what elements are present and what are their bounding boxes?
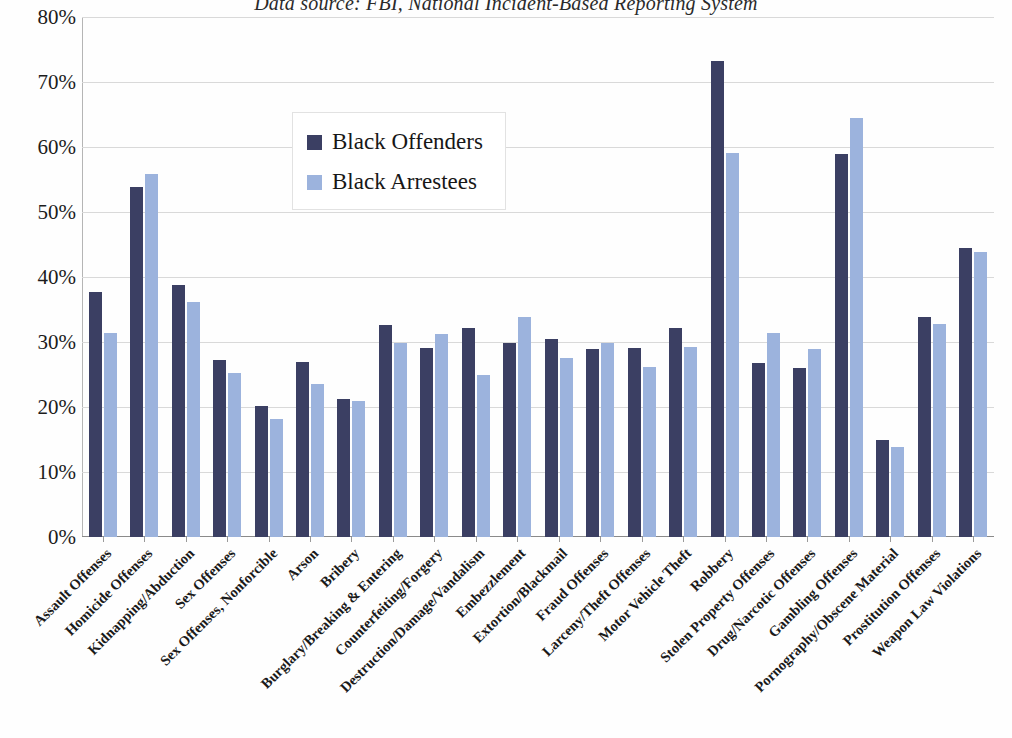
x-label-slot: Larceny/Theft Offenses (621, 537, 662, 737)
legend: Black Offenders Black Arrestees (292, 112, 506, 210)
y-tick-label: 0% (4, 525, 76, 550)
bar-arrestees[interactable] (684, 347, 697, 537)
bar-arrestees[interactable] (394, 343, 407, 537)
bar-arrestees[interactable] (560, 358, 573, 537)
plot-area (82, 17, 994, 537)
x-label-slot: Homicide Offenses (123, 537, 164, 737)
bar-arrestees[interactable] (104, 333, 117, 537)
x-label-slot: Sex Offenses (206, 537, 247, 737)
bar-offenders[interactable] (130, 187, 143, 537)
bar-chart: Data source: FBI, National Incident-Base… (0, 0, 1012, 738)
bar-arrestees[interactable] (726, 153, 739, 537)
bar-arrestees[interactable] (643, 367, 656, 537)
bar-offenders[interactable] (255, 406, 268, 537)
bar-arrestees[interactable] (187, 302, 200, 537)
bar-group (745, 17, 786, 537)
bar-offenders[interactable] (337, 399, 350, 537)
bar-group (165, 17, 206, 537)
bar-offenders[interactable] (296, 362, 309, 538)
bar-arrestees[interactable] (145, 174, 158, 537)
legend-label-arrestees: Black Arrestees (332, 169, 477, 195)
y-tick-label: 20% (4, 395, 76, 420)
y-tick-label: 70% (4, 70, 76, 95)
bar-offenders[interactable] (628, 348, 641, 537)
y-tick-label: 50% (4, 200, 76, 225)
bar-offenders[interactable] (213, 360, 226, 537)
bar-arrestees[interactable] (808, 349, 821, 538)
bar-arrestees[interactable] (435, 334, 448, 537)
bar-group (206, 17, 247, 537)
bar-group (870, 17, 911, 537)
bar-arrestees[interactable] (933, 324, 946, 537)
y-tick-label: 10% (4, 460, 76, 485)
bar-group (662, 17, 703, 537)
chart-title: Data source: FBI, National Incident-Base… (0, 0, 1012, 15)
x-label-slot: Prostitution Offenses (911, 537, 952, 737)
bar-offenders[interactable] (918, 317, 931, 537)
bar-group (911, 17, 952, 537)
legend-item-black-arrestees: Black Arrestees (307, 169, 483, 195)
bar-arrestees[interactable] (228, 373, 241, 537)
bar-group (331, 17, 372, 537)
y-tick-label: 40% (4, 265, 76, 290)
bar-offenders[interactable] (752, 363, 765, 537)
x-label-slot: Embezzlement (497, 537, 538, 737)
bar-arrestees[interactable] (850, 118, 863, 537)
legend-item-black-offenders: Black Offenders (307, 129, 483, 155)
bar-arrestees[interactable] (767, 333, 780, 537)
legend-swatch-icon-offenders (307, 135, 322, 150)
bar-group (248, 17, 289, 537)
x-axis-labels: Assault OffensesHomicide OffensesKidnapp… (82, 537, 994, 737)
bar-offenders[interactable] (420, 348, 433, 537)
bar-group (704, 17, 745, 537)
bar-arrestees[interactable] (352, 401, 365, 537)
y-tick-label: 30% (4, 330, 76, 355)
legend-swatch-icon-arrestees (307, 175, 322, 190)
legend-label-offenders: Black Offenders (332, 129, 483, 155)
bar-arrestees[interactable] (601, 343, 614, 537)
y-axis: 80%70%60%50%40%30%20%10%0% (0, 17, 76, 537)
bar-arrestees[interactable] (518, 317, 531, 537)
bar-group (497, 17, 538, 537)
bar-group (289, 17, 330, 537)
bar-group (372, 17, 413, 537)
bar-offenders[interactable] (89, 292, 102, 537)
bar-group (455, 17, 496, 537)
bar-offenders[interactable] (545, 339, 558, 537)
bar-group (414, 17, 455, 537)
bar-offenders[interactable] (835, 154, 848, 538)
y-tick-label: 60% (4, 135, 76, 160)
bar-offenders[interactable] (462, 328, 475, 537)
bar-group (579, 17, 620, 537)
bar-arrestees[interactable] (311, 384, 324, 537)
bar-arrestees[interactable] (270, 419, 283, 537)
x-label-slot: Sex Offenses, Nonforcible (248, 537, 289, 737)
bar-arrestees[interactable] (974, 252, 987, 537)
bar-offenders[interactable] (959, 248, 972, 537)
bar-groups (82, 17, 994, 537)
bar-offenders[interactable] (503, 343, 516, 537)
bar-offenders[interactable] (379, 325, 392, 537)
bar-group (621, 17, 662, 537)
y-tick-label: 80% (4, 5, 76, 30)
bar-group (123, 17, 164, 537)
bar-arrestees[interactable] (891, 447, 904, 537)
bar-offenders[interactable] (586, 349, 599, 537)
bar-group (953, 17, 994, 537)
bar-group (538, 17, 579, 537)
bar-offenders[interactable] (876, 440, 889, 538)
bar-offenders[interactable] (172, 285, 185, 537)
x-label-slot: Weapon Law Violations (953, 537, 994, 737)
bar-offenders[interactable] (669, 328, 682, 537)
x-label-slot: Counterfeiting/Forgery (414, 537, 455, 737)
bar-group (82, 17, 123, 537)
bar-group (787, 17, 828, 537)
bar-offenders[interactable] (793, 368, 806, 537)
bar-arrestees[interactable] (477, 375, 490, 538)
bar-offenders[interactable] (711, 61, 724, 537)
bar-group (828, 17, 869, 537)
